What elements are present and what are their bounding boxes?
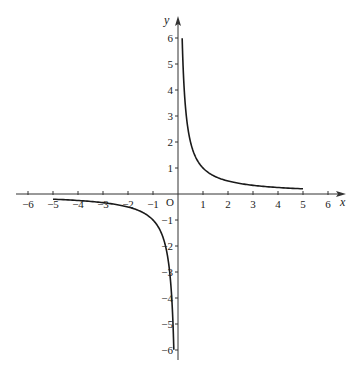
x-tick-label: 4 bbox=[275, 198, 281, 210]
x-tick-label: −6 bbox=[22, 198, 34, 210]
y-axis-label: y bbox=[163, 13, 170, 27]
y-tick-label: −5 bbox=[161, 318, 173, 330]
y-tick-label: 2 bbox=[168, 136, 174, 148]
x-tick-label: 3 bbox=[250, 198, 256, 210]
x-tick-label: 5 bbox=[300, 198, 306, 210]
origin-label: O bbox=[166, 196, 174, 208]
y-tick-label: 5 bbox=[168, 58, 174, 70]
x-tick-label: 1 bbox=[200, 198, 206, 210]
x-tick-label: 6 bbox=[325, 198, 331, 210]
axes: xyO bbox=[16, 13, 346, 360]
y-tick-label: −3 bbox=[161, 266, 173, 278]
y-tick-label: 3 bbox=[168, 110, 174, 122]
hyperbola-chart: xyO −6−5−4−3−2−1123456−6−5−4−3−2−1123456 bbox=[0, 0, 362, 377]
y-tick-label: 6 bbox=[168, 32, 174, 44]
y-tick-label: −1 bbox=[161, 214, 173, 226]
x-tick-label: 2 bbox=[225, 198, 231, 210]
curve-positive-branch bbox=[182, 38, 303, 188]
x-axis-label: x bbox=[339, 195, 346, 209]
y-tick-label: 1 bbox=[168, 162, 174, 174]
x-tick-label: −1 bbox=[147, 198, 159, 210]
y-tick-label: −6 bbox=[161, 344, 173, 356]
y-tick-label: 4 bbox=[168, 84, 174, 96]
curve-negative-branch bbox=[53, 199, 174, 349]
